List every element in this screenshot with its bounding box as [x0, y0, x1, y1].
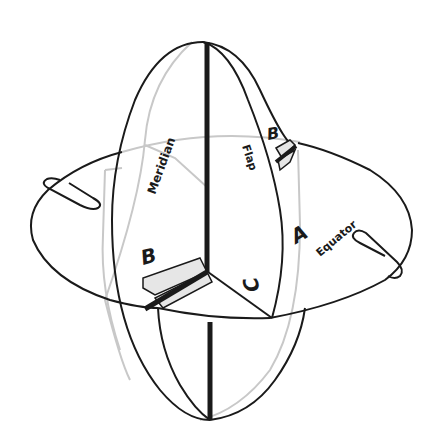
central-axis — [207, 42, 210, 420]
diagram-canvas: Meridian Flap B B C A Equator — [0, 0, 439, 442]
a-label: A — [285, 220, 312, 250]
c-label: C — [238, 274, 265, 295]
flap-label: Flap — [239, 143, 260, 172]
b-label-left: B — [138, 243, 159, 270]
slot-b-right — [276, 140, 296, 170]
flap — [203, 42, 295, 318]
left-paperclip-icon — [44, 178, 100, 209]
globe-diagram: Meridian Flap B B C A Equator — [0, 0, 439, 442]
hidden-lines — [103, 42, 300, 420]
